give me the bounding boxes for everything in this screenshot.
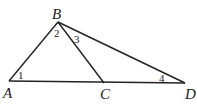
segment-ab xyxy=(9,22,58,81)
segment-bd xyxy=(58,22,185,83)
label-b: B xyxy=(52,6,61,22)
angle-4-label: 4 xyxy=(159,72,165,84)
label-a: A xyxy=(2,85,13,101)
label-c: C xyxy=(100,86,111,102)
angle-2-label: 2 xyxy=(54,27,60,39)
label-d: D xyxy=(184,86,196,102)
angle-1-label: 1 xyxy=(18,69,24,81)
angle-3-label: 3 xyxy=(74,33,80,45)
triangle-diagram: B A C D 1 2 3 4 xyxy=(0,0,197,110)
segment-bc xyxy=(58,22,104,83)
